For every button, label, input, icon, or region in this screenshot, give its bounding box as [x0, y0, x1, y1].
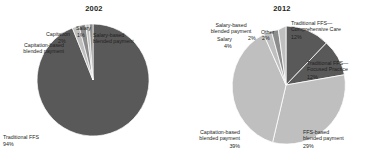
label-capitation-blended-pct-text: 39%	[229, 143, 240, 149]
label-other-pct-2012: 2%	[262, 35, 270, 41]
label-capitation-text: Capitation	[46, 31, 70, 37]
label-trad-focused-pct-text: 12%	[307, 74, 318, 80]
label-salary-blended-2012: Salary-based blended payment	[200, 22, 262, 34]
label-capitation-pct-text: 2%	[58, 38, 66, 44]
label-salary-pct-text: 1%	[77, 32, 85, 38]
label-salary-text: Salary	[217, 36, 232, 42]
chart-title-2002: 2002	[0, 4, 188, 13]
label-capitation-2002: Capitation	[46, 31, 70, 37]
label-salary-text: Salary	[76, 25, 91, 31]
label-salary-pct-2012: 4%	[224, 43, 232, 49]
label-trad-comprehensive-pct-text: 12%	[291, 34, 302, 40]
label-salary-blended-2002: Salary-based blended payment	[93, 32, 134, 44]
label-trad-focused-2012: Traditional FFS— Focused Practice	[307, 60, 348, 72]
label-capitation-blended-2012: Capitation-based blended payment	[168, 129, 240, 141]
chart-panel-2002: 2002 Capitation-based blended payment Ca…	[0, 0, 188, 168]
label-salary-2012: Salary	[217, 36, 232, 42]
label-trad-comprehensive-2012: Traditional FFS— Comprehensive Care	[291, 20, 341, 32]
label-traditional-ffs-2002: Traditional FFS	[3, 134, 39, 140]
pie-chart-2012	[227, 26, 345, 144]
label-traditional-ffs-pct-text: 94%	[3, 141, 14, 147]
label-trad-comprehensive-pct-2012: 12%	[291, 34, 302, 40]
label-ffs-blended-pct-2012: 29%	[303, 143, 314, 149]
label-ffs-blended-text: FFS-based blended payment	[303, 129, 344, 141]
pie-svg-2012	[227, 26, 345, 144]
chart-title-2012: 2012	[188, 4, 376, 13]
label-ffs-blended-2012: FFS-based blended payment	[303, 129, 344, 141]
label-capitation-blended-2002: Capitation-based blended payment	[2, 42, 64, 54]
label-trad-focused-pct-2012: 12%	[307, 74, 318, 80]
label-trad-focused-text: Traditional FFS— Focused Practice	[307, 60, 348, 72]
label-traditional-ffs-pct-2002: 94%	[3, 141, 14, 147]
chart-panel-2012: 2012 Salary-based blended payment 2% Oth…	[188, 0, 376, 168]
label-salary-pct-text: 4%	[224, 43, 232, 49]
label-capitation-pct-2002: 2%	[58, 38, 66, 44]
label-salary-blended-pct-text: 2%	[248, 35, 256, 41]
label-ffs-blended-pct-text: 29%	[303, 143, 314, 149]
label-salary-blended-text: Salary-based blended payment	[211, 22, 252, 34]
label-salary-blended-text: Salary-based blended payment	[93, 32, 134, 44]
label-trad-comprehensive-text: Traditional FFS— Comprehensive Care	[291, 20, 341, 32]
label-salary-2002: Salary	[76, 25, 91, 31]
label-salary-blended-pct-2012: 2%	[248, 35, 256, 41]
label-other-pct-text: 2%	[262, 35, 270, 41]
label-capitation-blended-pct-2012: 39%	[168, 143, 240, 149]
label-traditional-ffs-text: Traditional FFS	[3, 134, 39, 140]
label-salary-pct-2002: 1%	[77, 32, 85, 38]
label-capitation-blended-text: Capitation-based blended payment	[199, 129, 240, 141]
